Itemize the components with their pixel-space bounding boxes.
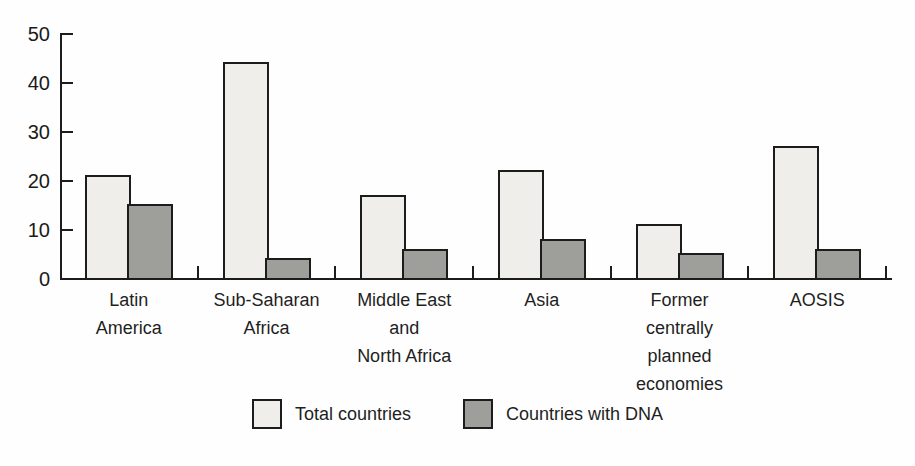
legend-label: Total countries [295, 404, 411, 425]
category-label-line: Africa [187, 314, 347, 342]
category-label-line: Sub-Saharan [187, 286, 347, 314]
y-tick-label: 30 [8, 120, 50, 144]
category-label-line: America [49, 314, 209, 342]
bar-countries-with-dna-former-centrally-planned-economies [678, 253, 724, 280]
bar-total-countries-middle-east-and-north-africa [360, 195, 406, 280]
y-tick [62, 33, 73, 35]
y-tick [62, 82, 73, 84]
x-axis-line [60, 278, 892, 280]
y-axis-line [60, 33, 62, 280]
bar-countries-with-dna-aosis [815, 249, 861, 280]
bar-total-countries-asia [498, 170, 544, 280]
legend-swatch-countries-with-dna [463, 399, 493, 429]
bar-countries-with-dna-latin-america [127, 204, 173, 280]
x-tick [472, 266, 474, 278]
x-tick [885, 266, 887, 278]
x-tick [334, 266, 336, 278]
y-tick [62, 131, 73, 133]
legend: Total countriesCountries with DNA [0, 399, 915, 429]
legend-swatch-total-countries [252, 399, 282, 429]
bar-countries-with-dna-asia [540, 239, 586, 280]
category-label-line: centrally [600, 314, 760, 342]
category-label-line: Latin [49, 286, 209, 314]
y-tick-label: 50 [8, 22, 50, 46]
y-tick [62, 180, 73, 182]
category-label-line: planned [600, 342, 760, 370]
category-label-line: and [324, 314, 484, 342]
x-tick [197, 266, 199, 278]
x-tick [747, 266, 749, 278]
category-label-line: AOSIS [737, 286, 897, 314]
category-label: Middle EastandNorth Africa [324, 286, 484, 370]
y-tick-label: 20 [8, 169, 50, 193]
y-tick-label: 40 [8, 71, 50, 95]
category-label: LatinAmerica [49, 286, 209, 342]
legend-item-total-countries: Total countries [252, 399, 411, 429]
bar-total-countries-sub-saharan-africa [223, 62, 269, 280]
category-label: Formercentrallyplannedeconomies [600, 286, 760, 398]
category-label-line: Asia [462, 286, 622, 314]
bar-countries-with-dna-middle-east-and-north-africa [402, 249, 448, 280]
category-label: AOSIS [737, 286, 897, 314]
y-tick [62, 229, 73, 231]
bar-total-countries-latin-america [85, 175, 131, 280]
category-label: Asia [462, 286, 622, 314]
category-label-line: Former [600, 286, 760, 314]
legend-item-countries-with-dna: Countries with DNA [463, 399, 663, 429]
category-label: Sub-SaharanAfrica [187, 286, 347, 342]
category-label-line: North Africa [324, 342, 484, 370]
x-tick [610, 266, 612, 278]
y-tick-label: 10 [8, 218, 50, 242]
bar-total-countries-former-centrally-planned-economies [636, 224, 682, 280]
y-tick [62, 278, 73, 280]
bar-countries-with-dna-sub-saharan-africa [265, 258, 311, 280]
legend-label: Countries with DNA [506, 404, 663, 425]
bar-total-countries-aosis [773, 146, 819, 280]
category-label-line: economies [600, 370, 760, 398]
y-tick-label: 0 [8, 267, 50, 291]
category-label-line: Middle East [324, 286, 484, 314]
bar-chart: 01020304050LatinAmericaSub-SaharanAfrica… [0, 0, 915, 466]
